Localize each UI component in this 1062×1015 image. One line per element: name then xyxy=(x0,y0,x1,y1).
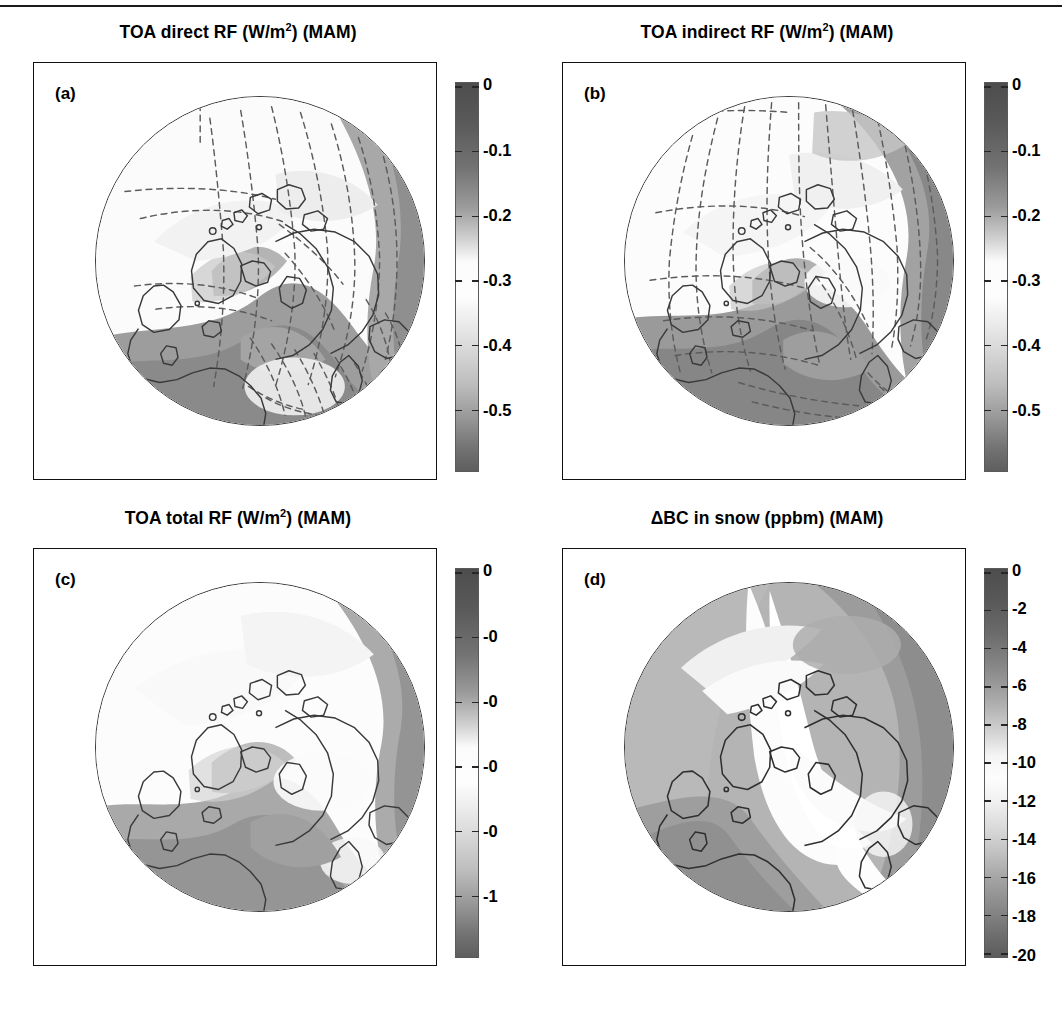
panel-d-cbar-label-9: -18 xyxy=(1012,907,1036,926)
panel-c-colorbar-ticks xyxy=(456,569,478,957)
panel-d-cbar-label-0: 0 xyxy=(1012,561,1021,580)
panel-b-letter: (b) xyxy=(584,84,606,104)
panel-c-globe xyxy=(95,582,425,912)
panel-c-cbar-label-3: -0 xyxy=(483,757,511,776)
panel-d-cbar-label-10: -20 xyxy=(1012,946,1036,965)
panel-d-cbar-label-1: -2 xyxy=(1012,599,1027,618)
panel-a-colorbar xyxy=(455,82,479,472)
panel-d-globe xyxy=(624,582,954,912)
panel-b-title: TOA indirect RF (W/m2) (MAM) xyxy=(562,22,972,43)
panel-b-cbar-label-5: -0.5 xyxy=(1012,401,1040,420)
panel-d-cbar-label-4: -8 xyxy=(1012,715,1027,734)
panel-c-colorbar xyxy=(455,568,479,958)
panel-d-cbar-label-8: -16 xyxy=(1012,869,1036,888)
panel-a-cbar-label-0: 0 xyxy=(483,75,492,94)
panel-d-colorbar xyxy=(984,568,1008,958)
panel-c-cbar-label-0: 0 xyxy=(483,561,511,580)
panel-b-globe xyxy=(624,96,954,426)
panel-a-cbar-label-3: -0.3 xyxy=(483,271,511,290)
panel-c-title: TOA total RF (W/m2) (MAM) xyxy=(33,508,443,529)
panel-a-field xyxy=(96,97,424,425)
panel-a-colorbar-ticks xyxy=(456,83,478,471)
panel-b: TOA indirect RF (W/m2) (MAM) (b) xyxy=(562,22,972,484)
panel-d: ΔBC in snow (ppbm) (MAM) (d) xyxy=(562,508,972,970)
panel-c-cbar-label-1: -0 xyxy=(483,627,511,646)
horizontal-rule xyxy=(0,5,1062,7)
panel-a: TOA direct RF (W/m2) (MAM) (a) xyxy=(33,22,443,484)
panel-b-colorbar-ticks xyxy=(985,83,1007,471)
panel-a-cbar-label-2: -0.2 xyxy=(483,206,511,225)
panel-d-cbar-label-7: -14 xyxy=(1012,830,1036,849)
panel-d-colorbar-ticks xyxy=(985,569,1007,957)
panel-d-field xyxy=(625,583,953,911)
panel-c-cbar-label-4: -0 xyxy=(483,822,511,841)
panel-a-cbar-label-1: -0.1 xyxy=(483,141,511,160)
panel-b-cbar-label-4: -0.4 xyxy=(1012,336,1040,355)
panel-a-globe xyxy=(95,96,425,426)
panel-b-cbar-label-3: -0.3 xyxy=(1012,271,1040,290)
panel-d-cbar-label-3: -6 xyxy=(1012,676,1027,695)
panel-b-cbar-label-2: -0.2 xyxy=(1012,206,1040,225)
panel-b-field xyxy=(625,97,953,425)
panel-d-title: ΔBC in snow (ppbm) (MAM) xyxy=(562,508,972,529)
panel-a-title: TOA direct RF (W/m2) (MAM) xyxy=(33,22,443,43)
panel-b-cbar-label-1: -0.1 xyxy=(1012,141,1040,160)
panel-d-cbar-label-5: -10 xyxy=(1012,753,1036,772)
panel-d-cbar-label-2: -4 xyxy=(1012,638,1027,657)
panel-c-field xyxy=(96,583,424,911)
panel-c: TOA total RF (W/m2) (MAM) (c) xyxy=(33,508,443,970)
panel-c-cbar-label-5: -1 xyxy=(483,887,511,906)
panel-d-letter: (d) xyxy=(584,570,606,590)
panel-a-letter: (a) xyxy=(55,84,76,104)
panel-a-cbar-label-5: -0.5 xyxy=(483,401,511,420)
panel-b-cbar-label-0: 0 xyxy=(1012,75,1021,94)
panel-c-cbar-label-2: -0 xyxy=(483,692,511,711)
panel-a-cbar-label-4: -0.4 xyxy=(483,336,511,355)
panel-b-colorbar xyxy=(984,82,1008,472)
panel-d-cbar-label-6: -12 xyxy=(1012,792,1036,811)
panel-c-letter: (c) xyxy=(55,570,76,590)
